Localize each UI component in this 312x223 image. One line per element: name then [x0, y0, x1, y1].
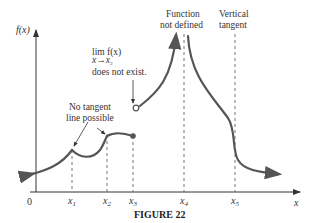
arrow-no-tangent-1	[74, 122, 88, 146]
no-tangent-line1: No tangent	[69, 102, 111, 112]
annotation-limit: lim f(x) x→x3 does not exist.	[91, 47, 147, 77]
annotation-undefined: Function not defined	[160, 9, 203, 30]
tick-x5: x5	[230, 195, 239, 208]
origin-label: 0	[27, 196, 32, 207]
curve-segment-left	[32, 150, 72, 174]
tick-x3: x3	[128, 195, 137, 208]
undefined-line1: Function	[166, 9, 200, 19]
curve-segment-flat	[107, 133, 133, 136]
x-axis-label: x	[293, 197, 299, 208]
closed-point-x3	[130, 133, 136, 139]
y-axis-label: f(x)	[16, 24, 31, 36]
figure-canvas: f(x) x 0 x1 x2 x3 x4 x5 lim f(x) x→x3 do…	[0, 0, 312, 223]
arrow-no-tangent-2	[97, 128, 105, 134]
limit-text-sub: x→x3	[91, 55, 113, 66]
undefined-line2: not defined	[160, 20, 203, 30]
open-point-x3	[133, 105, 139, 111]
curve-segment-dip	[72, 136, 107, 157]
tick-x1: x1	[67, 195, 76, 208]
vertical-line1: Vertical	[219, 9, 249, 19]
annotation-no-tangent: No tangent line possible	[66, 102, 114, 123]
annotation-vertical-tangent: Vertical tangent	[219, 9, 249, 30]
figure-caption: FIGURE 22	[134, 209, 185, 220]
curve-segment-fall	[188, 36, 278, 174]
limit-text-line3: does not exist.	[92, 67, 147, 77]
tick-x4: x4	[179, 195, 188, 208]
tick-x2: x2	[102, 195, 111, 208]
vertical-line2: tangent	[219, 20, 247, 30]
x-tick-labels: x1 x2 x3 x4 x5	[67, 195, 239, 208]
no-tangent-line2: line possible	[66, 113, 114, 123]
